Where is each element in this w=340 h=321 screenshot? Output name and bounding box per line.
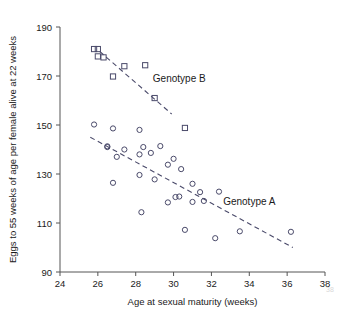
y-tick-label: 190 <box>36 22 52 33</box>
data-point-genotype-a <box>177 194 182 199</box>
data-point-genotype-a <box>110 180 115 185</box>
x-tick-label: 24 <box>55 278 66 289</box>
data-point-genotype-b <box>143 63 148 68</box>
data-point-genotype-a <box>141 144 146 149</box>
data-point-genotype-a <box>152 177 157 182</box>
watermark-text: 38 <box>326 286 334 293</box>
x-tick-label: 36 <box>282 278 293 289</box>
data-point-genotype-a <box>91 122 96 127</box>
data-point-genotype-a <box>137 172 142 177</box>
data-point-genotype-a <box>137 152 142 157</box>
data-point-genotype-a <box>237 229 242 234</box>
data-point-genotype-b <box>122 64 127 69</box>
data-point-genotype-a <box>216 189 221 194</box>
data-point-genotype-a <box>165 200 170 205</box>
y-tick-label: 170 <box>36 71 52 82</box>
data-point-genotype-a <box>182 227 187 232</box>
data-point-genotype-a <box>148 150 153 155</box>
x-tick-label: 28 <box>130 278 141 289</box>
trend-line-genotype-a <box>90 137 293 247</box>
chart-figure: 242628303234363890110130150170190Age at … <box>0 0 340 321</box>
data-point-genotype-a <box>213 236 218 241</box>
data-point-genotype-a <box>179 167 184 172</box>
annotation-genotype-a: Genotype A <box>223 196 276 207</box>
data-point-genotype-b <box>101 55 106 60</box>
x-tick-label: 32 <box>206 278 217 289</box>
data-point-genotype-a <box>137 127 142 132</box>
y-tick-label: 130 <box>36 169 52 180</box>
data-point-genotype-b <box>110 74 115 79</box>
scatter-plot-canvas: 242628303234363890110130150170190Age at … <box>0 0 340 321</box>
data-point-genotype-a <box>190 199 195 204</box>
data-point-genotype-a <box>165 162 170 167</box>
x-tick-label: 30 <box>168 278 179 289</box>
data-point-genotype-b <box>95 54 100 59</box>
data-point-genotype-a <box>197 190 202 195</box>
data-point-genotype-a <box>110 126 115 131</box>
annotation-genotype-b: Genotype B <box>153 73 206 84</box>
data-point-genotype-b <box>95 46 100 51</box>
y-axis-title: Eggs to 55 weeks of age per female alive… <box>7 36 18 263</box>
data-point-genotype-b <box>182 125 187 130</box>
data-point-genotype-a <box>139 210 144 215</box>
y-tick-label: 150 <box>36 120 52 131</box>
data-point-genotype-a <box>158 143 163 148</box>
y-tick-label: 90 <box>41 267 52 278</box>
data-point-genotype-b <box>91 46 96 51</box>
x-tick-label: 34 <box>244 278 255 289</box>
x-axis-title: Age at sexual maturity (weeks) <box>128 296 258 307</box>
data-point-genotype-a <box>114 154 119 159</box>
data-point-genotype-a <box>171 156 176 161</box>
data-point-genotype-a <box>190 181 195 186</box>
y-tick-label: 110 <box>37 218 52 229</box>
data-point-genotype-a <box>288 229 293 234</box>
data-point-genotype-a <box>122 147 127 152</box>
x-tick-label: 26 <box>93 278 104 289</box>
